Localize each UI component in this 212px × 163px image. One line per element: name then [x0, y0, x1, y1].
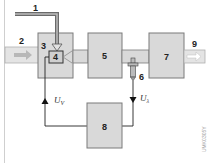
sensor-signal-label: Uλ — [140, 93, 150, 104]
watermark: UMK0305Y — [201, 126, 207, 152]
arrow-up-icon — [42, 98, 49, 104]
label-5: 5 — [102, 51, 107, 61]
label-7: 7 — [164, 52, 169, 62]
inlet-pipe — [5, 47, 39, 63]
control-signal-label: UV — [54, 95, 66, 106]
pipe-3-5 — [73, 50, 88, 63]
label-2: 2 — [19, 36, 24, 46]
label-1: 1 — [33, 3, 38, 13]
sensor-signal-line — [122, 81, 133, 126]
arrow-down-icon — [130, 97, 137, 103]
label-9: 9 — [192, 39, 197, 49]
pipe-5-7 — [122, 50, 149, 63]
label-4: 4 — [53, 52, 58, 62]
label-6: 6 — [139, 72, 144, 82]
label-8: 8 — [102, 122, 107, 132]
diagram-canvas: 2 3 1 4 5 6 7 9 Uλ UV 8 UMK030 — [0, 0, 212, 163]
outlet-pipe — [184, 50, 205, 63]
label-3: 3 — [41, 41, 46, 51]
